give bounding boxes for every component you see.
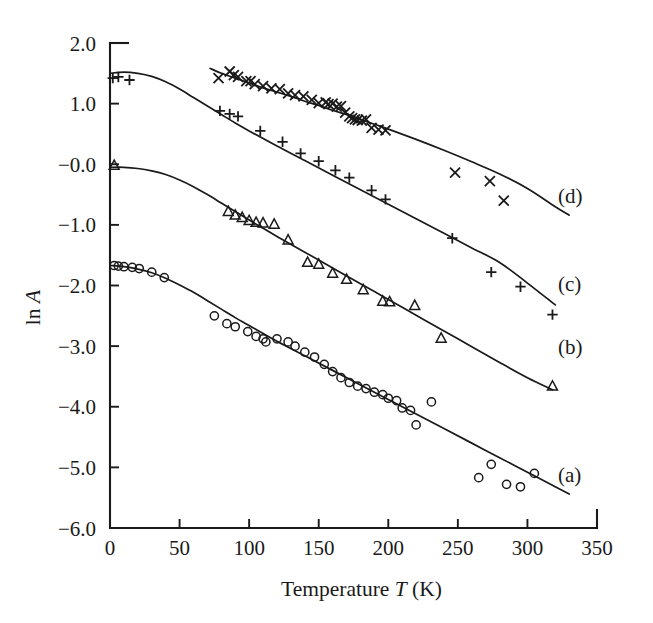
fit-curve-d	[210, 68, 569, 215]
data-point-triangle	[223, 206, 233, 215]
data-point-circle	[210, 312, 218, 320]
data-point-circle	[310, 353, 318, 361]
curve-label-c: (c)	[558, 272, 581, 296]
x-axis-tick-label: 100	[233, 536, 265, 560]
data-point-triangle	[410, 300, 420, 309]
fit-curve-c	[110, 72, 555, 305]
y-axis-tick-label: −5.0	[58, 456, 96, 480]
data-point-triangle	[303, 257, 313, 266]
x-axis-tick-label: 150	[303, 536, 335, 560]
data-point-triangle	[314, 259, 324, 268]
data-point-plus	[124, 75, 134, 85]
x-axis-tick-label: 200	[373, 536, 405, 560]
y-axis-tick-label: −4.0	[58, 395, 96, 419]
data-point-triangle	[436, 333, 446, 342]
y-axis-tick-label: 2.0	[70, 32, 96, 56]
data-point-circle	[412, 421, 420, 429]
data-point-plus	[380, 194, 390, 204]
x-axis-title: Temperature T (K)	[281, 577, 442, 601]
data-point-plus	[447, 233, 457, 243]
data-point-cross	[485, 176, 495, 186]
curve-label-d: (d)	[558, 184, 583, 208]
data-point-plus	[314, 156, 324, 166]
data-point-circle	[291, 342, 299, 350]
curve-label-a: (a)	[558, 463, 581, 487]
data-point-cross	[381, 125, 391, 135]
data-point-circle	[223, 320, 231, 328]
y-axis-tick-label: −3.0	[58, 335, 96, 359]
y-axis-title: ln A	[21, 289, 45, 325]
figure-container: 2.01.0−0.0−1.0−2.0−3.0−4.0−5.0−6.0050100…	[0, 0, 653, 623]
y-axis-tick-label: −6.0	[58, 517, 96, 541]
x-axis-tick-label: 50	[169, 536, 190, 560]
data-point-cross	[214, 73, 224, 83]
x-axis-tick-label: 250	[442, 536, 474, 560]
y-axis-tick-label: −2.0	[58, 274, 96, 298]
data-point-circle	[502, 480, 510, 488]
data-point-plus	[277, 137, 287, 147]
y-axis-tick-label: −1.0	[58, 213, 96, 237]
data-point-plus	[233, 111, 243, 121]
data-point-plus	[215, 106, 225, 116]
data-point-triangle	[358, 284, 368, 293]
y-axis-tick-label: 1.0	[70, 92, 96, 116]
series-a	[110, 261, 569, 494]
x-axis-tick-label: 0	[105, 536, 116, 560]
data-point-circle	[475, 474, 483, 482]
curve-label-b: (b)	[558, 335, 583, 359]
series-b	[109, 160, 557, 390]
chart-plot-area: 2.01.0−0.0−1.0−2.0−3.0−4.0−5.0−6.0050100…	[0, 0, 653, 623]
series-d	[210, 66, 569, 215]
data-point-plus	[547, 309, 557, 319]
fit-curve-a	[110, 265, 569, 494]
x-axis-tick-label: 350	[581, 536, 613, 560]
data-point-cross	[450, 168, 460, 178]
data-point-cross	[367, 123, 377, 133]
data-point-triangle	[548, 381, 558, 390]
y-axis-tick-label: −0.0	[58, 153, 96, 177]
data-point-circle	[487, 460, 495, 468]
x-axis-tick-label: 300	[512, 536, 544, 560]
data-point-plus	[486, 267, 496, 277]
fit-curve-b	[110, 167, 552, 390]
data-point-circle	[231, 323, 239, 331]
data-point-circle	[427, 398, 435, 406]
data-point-circle	[516, 483, 524, 491]
data-point-triangle	[269, 219, 279, 228]
data-point-circle	[244, 327, 252, 335]
data-point-plus	[515, 282, 525, 292]
data-point-cross	[499, 196, 509, 206]
